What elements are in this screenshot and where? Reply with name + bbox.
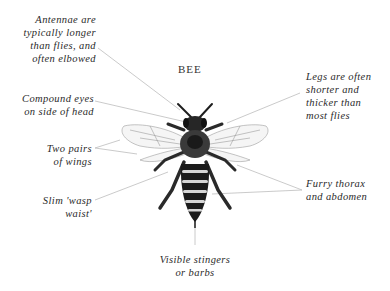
leader-fur-2: [212, 190, 302, 194]
compound-eye-left: [183, 118, 189, 128]
label-compound-eyes: Compound eyes on side of head: [2, 92, 94, 118]
bee-abdomen: [181, 164, 209, 222]
leader-waist: [95, 172, 168, 200]
antennae: [178, 104, 212, 117]
label-waist: Slim 'wasp waist': [20, 194, 92, 220]
leader-fur-1: [237, 165, 302, 190]
bee-diagram: BEE Antennae are typically longer than f…: [0, 0, 390, 291]
leader-wings-1: [95, 140, 120, 148]
label-fur: Furry thorax and abdomen: [306, 177, 390, 203]
label-antennae: Antennae are typically longer than flies…: [10, 13, 96, 65]
diagram-title: BEE: [178, 63, 202, 75]
leader-antennae: [98, 48, 180, 110]
label-stinger: Visible stingers or barbs: [140, 253, 250, 279]
label-wings: Two pairs of wings: [20, 142, 92, 168]
thorax-center: [187, 135, 203, 149]
leader-wings-2: [95, 148, 137, 154]
label-legs: Legs are often shorter and thicker than …: [306, 70, 390, 122]
compound-eye-right: [201, 118, 207, 128]
leader-legs: [227, 93, 300, 123]
